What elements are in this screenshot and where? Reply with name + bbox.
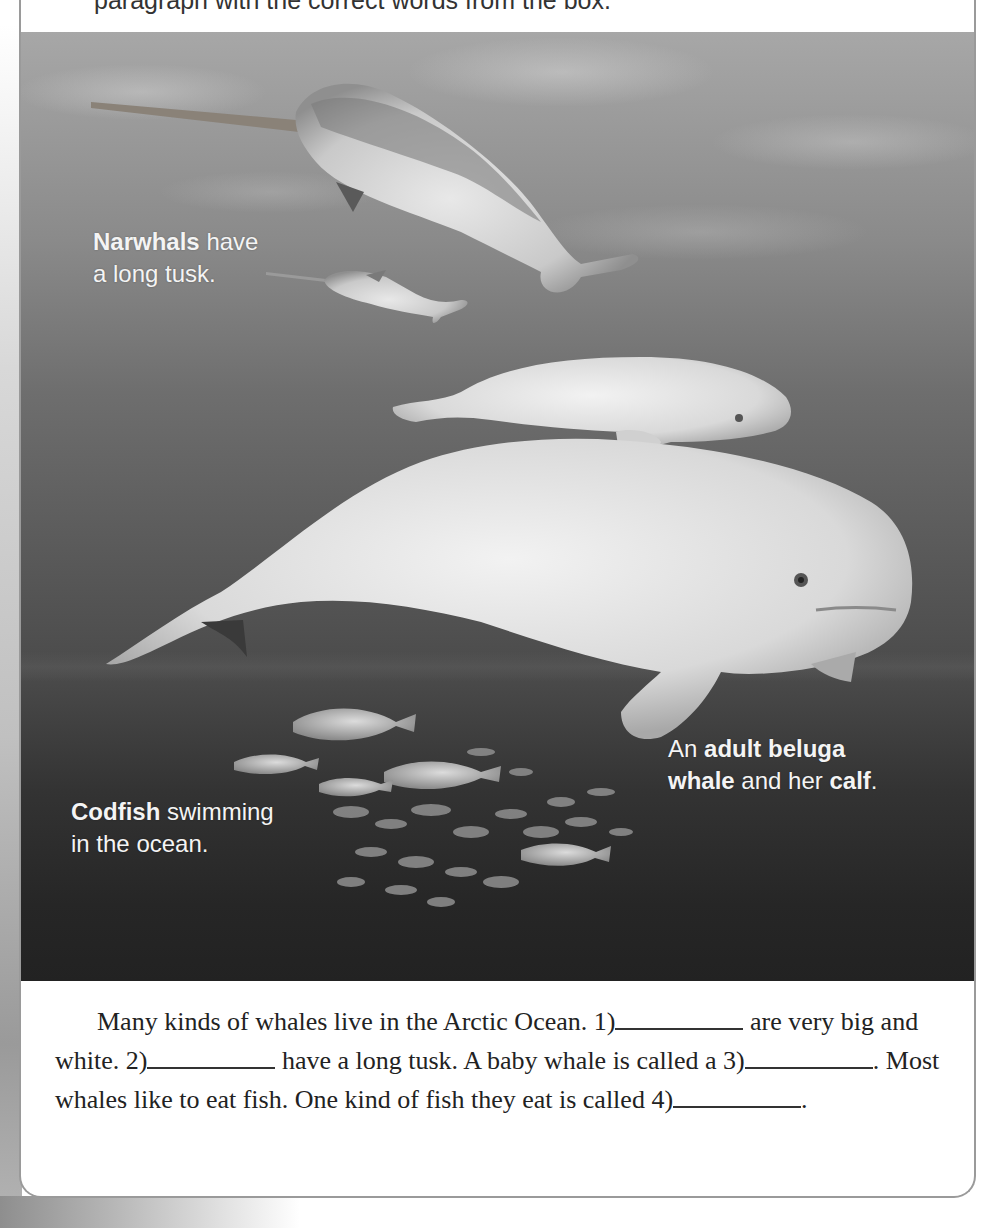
caption-beluga-bold1: adult beluga [704,735,845,762]
caption-codfish: Codfish swimming in the ocean. [71,796,274,860]
caption-beluga: An adult beluga whale and her calf. [668,733,877,797]
sentence-5: . [801,1085,808,1114]
caption-codfish-bold: Codfish [71,798,160,825]
caption-codfish-line2: in the ocean. [71,830,208,857]
sentence-3: have a long tusk. A baby whale is called… [275,1046,723,1075]
caption-beluga-middle: and her [735,767,830,794]
beluga-adult-icon [106,439,912,739]
blank-1-label: 1) [594,1007,616,1036]
blank-4-field[interactable] [673,1084,801,1108]
arctic-ocean-photo: Narwhals have a long tusk. An adult belu… [21,32,974,981]
worksheet-panel: paragraph with the correct words from th… [19,0,976,1198]
blank-2-field[interactable] [147,1045,275,1069]
caption-beluga-bold2: whale [668,767,735,794]
caption-beluga-prefix: An [668,735,704,762]
caption-beluga-suffix: . [871,767,878,794]
blank-3-label: 3) [723,1046,745,1075]
fill-in-paragraph: Many kinds of whales live in the Arctic … [55,1002,955,1119]
blank-4-label: 4) [651,1085,673,1114]
caption-beluga-bold3: calf [829,767,870,794]
caption-narwhal: Narwhals have a long tusk. [93,226,258,290]
caption-narwhal-line2: a long tusk. [93,260,216,287]
sentence-1: Many kinds of whales live in the Arctic … [97,1007,594,1036]
instruction-text: paragraph with the correct words from th… [94,0,611,15]
caption-narwhal-bold: Narwhals [93,228,200,255]
narwhal-calf-icon [266,270,468,323]
blank-3-field[interactable] [745,1045,873,1069]
blank-1-field[interactable] [615,1006,743,1030]
caption-narwhal-rest: have [200,228,259,255]
caption-codfish-rest: swimming [160,798,273,825]
codfish-school-icon [234,709,633,908]
blank-2-label: 2) [126,1046,148,1075]
background-photo-bottom [0,1196,300,1228]
